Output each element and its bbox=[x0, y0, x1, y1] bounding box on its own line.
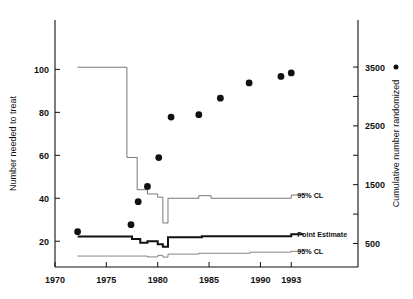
series-line-step-mid bbox=[78, 234, 304, 246]
scatter-point bbox=[74, 228, 81, 235]
scatter-point bbox=[195, 111, 202, 118]
scatter-point bbox=[128, 221, 135, 228]
y2-tick-label: 500 bbox=[365, 239, 380, 249]
y-axis-title-left: Number needed to treat bbox=[8, 95, 18, 191]
y2-tick-label: 3500 bbox=[365, 63, 385, 73]
y-axis-title-right: Cumulative number randomized bbox=[391, 80, 401, 208]
y-tick-label: 20 bbox=[39, 237, 49, 247]
scatter-point bbox=[155, 154, 162, 161]
series-line-step-upper bbox=[78, 67, 304, 223]
cumulative-meta-analysis-chart: 197019751980198519901993 20406080100 500… bbox=[0, 0, 413, 299]
y-axis-left: 20406080100 bbox=[34, 65, 60, 247]
y2-tick-label: 2500 bbox=[365, 121, 385, 131]
x-tick-label: 1980 bbox=[148, 275, 168, 285]
y-tick-label: 40 bbox=[39, 194, 49, 204]
y2-tick-label: 1500 bbox=[365, 180, 385, 190]
y-tick-label: 100 bbox=[34, 65, 49, 75]
series-line-step-lower bbox=[78, 251, 304, 257]
x-axis: 197019751980198519901993 bbox=[45, 262, 301, 285]
x-tick-label: 1990 bbox=[250, 275, 270, 285]
x-tick-label: 1985 bbox=[199, 275, 219, 285]
y-tick-label: 80 bbox=[39, 108, 49, 118]
x-tick-label: 1993 bbox=[281, 275, 301, 285]
x-tick-label: 1970 bbox=[45, 275, 65, 285]
axis-titles: Number needed to treatCumulative number … bbox=[8, 65, 401, 208]
scatter-points bbox=[74, 70, 294, 236]
x-tick-label: 1975 bbox=[96, 275, 116, 285]
scatter-point bbox=[135, 198, 142, 205]
y-tick-label: 60 bbox=[39, 151, 49, 161]
scatter-point bbox=[144, 183, 151, 190]
series-label-step-lower: 95% CL bbox=[297, 247, 324, 256]
series-labels: 95% CLPoint Estimate95% CL bbox=[297, 191, 347, 256]
legend-dot-icon bbox=[394, 65, 399, 70]
series-lines bbox=[78, 67, 304, 257]
scatter-point bbox=[217, 95, 224, 102]
scatter-point bbox=[246, 80, 253, 87]
scatter-point bbox=[168, 114, 175, 121]
scatter-point bbox=[278, 73, 285, 80]
series-label-step-mid: Point Estimate bbox=[297, 230, 347, 239]
chart-container: 197019751980198519901993 20406080100 500… bbox=[0, 0, 413, 299]
series-label-step-upper: 95% CL bbox=[297, 191, 324, 200]
scatter-point bbox=[288, 70, 295, 77]
